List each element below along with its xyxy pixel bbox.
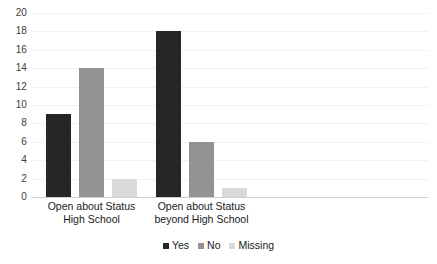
legend-label: No	[207, 240, 220, 251]
y-tick-label: 10	[16, 100, 27, 110]
category-label-line: Open about Status	[146, 200, 258, 213]
bar-group	[46, 13, 137, 197]
axis-baseline	[31, 197, 428, 198]
legend-swatch-icon	[229, 243, 235, 249]
bar-yes	[156, 31, 181, 197]
legend-swatch-icon	[163, 243, 169, 249]
legend-label: Missing	[238, 240, 274, 251]
category-label-line: Open about Status	[36, 200, 148, 213]
y-axis: 20181614121086420	[0, 13, 27, 197]
bar-no	[79, 68, 104, 197]
bar-yes	[46, 114, 71, 197]
legend-item-missing[interactable]: Missing	[229, 240, 274, 251]
y-tick-label: 0	[21, 192, 27, 202]
legend-swatch-icon	[198, 243, 204, 249]
category-label-line: High School	[36, 213, 148, 226]
bar-no	[189, 142, 214, 197]
category-axis-labels: Open about StatusHigh SchoolOpen about S…	[31, 200, 428, 232]
y-tick-label: 20	[16, 8, 27, 18]
legend: YesNoMissing	[0, 240, 437, 251]
legend-item-no[interactable]: No	[198, 240, 220, 251]
y-tick-label: 4	[21, 155, 27, 165]
category-label: Open about StatusHigh School	[36, 200, 148, 225]
y-tick-label: 16	[16, 45, 27, 55]
bar-missing	[222, 188, 247, 197]
y-tick-label: 18	[16, 26, 27, 36]
bar-missing	[112, 179, 137, 197]
y-tick-label: 8	[21, 118, 27, 128]
bar-chart: 20181614121086420 Open about StatusHigh …	[0, 0, 437, 264]
legend-label: Yes	[172, 240, 189, 251]
plot-area	[31, 13, 428, 197]
y-tick-label: 2	[21, 174, 27, 184]
bar-groups	[31, 13, 428, 197]
y-tick-label: 6	[21, 137, 27, 147]
category-label-line: beyond High School	[146, 213, 258, 226]
y-tick-label: 12	[16, 82, 27, 92]
y-tick-label: 14	[16, 63, 27, 73]
category-label: Open about Statusbeyond High School	[146, 200, 258, 225]
legend-item-yes[interactable]: Yes	[163, 240, 189, 251]
bar-group	[156, 13, 247, 197]
